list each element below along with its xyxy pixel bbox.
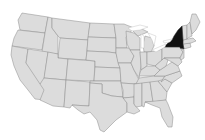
state-mississippi[interactable] (134, 83, 142, 107)
state-wyoming[interactable] (58, 38, 88, 60)
state-maine[interactable] (190, 14, 200, 34)
state-washington[interactable] (18, 13, 48, 33)
states-layer (11, 13, 200, 132)
state-south-dakota[interactable] (87, 37, 116, 53)
state-new-mexico[interactable] (64, 80, 90, 108)
us-map (0, 0, 205, 140)
lake-superior (128, 25, 148, 31)
state-north-dakota[interactable] (88, 23, 116, 38)
state-colorado[interactable] (66, 59, 95, 81)
lake-michigan (141, 34, 144, 48)
state-new-york[interactable] (164, 26, 184, 49)
state-kansas[interactable] (94, 67, 121, 81)
state-arizona[interactable] (40, 78, 66, 107)
state-florida[interactable] (145, 100, 173, 127)
